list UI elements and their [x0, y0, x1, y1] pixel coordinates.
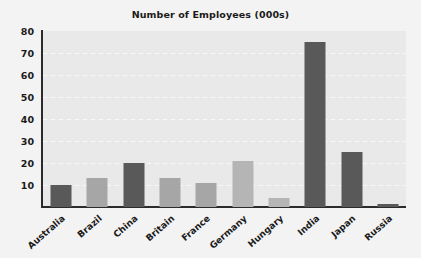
bar-slot: [43, 31, 79, 207]
x-axis-tick-label-slot: Russia: [370, 209, 406, 258]
x-axis-tick-label-slot: Brazil: [79, 209, 115, 258]
bar: [160, 178, 181, 207]
bars-layer: [43, 31, 406, 207]
x-axis-tick-label: Brazil: [75, 212, 105, 240]
bar-chart: Number of Employees (000s) 1020304050607…: [0, 0, 421, 258]
chart-title: Number of Employees (000s): [0, 9, 421, 20]
x-axis-tick-labels: AustraliaBrazilChinaBritainFranceGermany…: [43, 209, 406, 258]
bar-slot: [79, 31, 115, 207]
bar-slot: [370, 31, 406, 207]
y-axis-tick-label: 30: [0, 136, 38, 147]
x-axis-tick-label-slot: India: [297, 209, 333, 258]
bar: [268, 198, 289, 207]
bar: [123, 163, 144, 207]
bar-slot: [333, 31, 369, 207]
y-axis-tick-label: 60: [0, 70, 38, 81]
bar-slot: [261, 31, 297, 207]
bar: [377, 204, 398, 207]
bar: [87, 178, 108, 207]
bar: [232, 161, 253, 207]
y-axis-tick-label: 80: [0, 26, 38, 37]
bar-slot: [188, 31, 224, 207]
y-axis-tick-label: 10: [0, 180, 38, 191]
x-axis-tick-label-slot: Hungary: [261, 209, 297, 258]
bar-slot: [225, 31, 261, 207]
y-axis-tick-label: 70: [0, 48, 38, 59]
bar: [341, 152, 362, 207]
bar-slot: [297, 31, 333, 207]
bar-slot: [152, 31, 188, 207]
x-axis-tick-label-slot: Australia: [43, 209, 79, 258]
bar: [51, 185, 72, 207]
x-axis-tick-label: China: [112, 212, 142, 240]
y-axis-tick-labels: 1020304050607080: [0, 31, 38, 207]
y-axis-tick-label: 50: [0, 92, 38, 103]
x-axis-tick-label: Australia: [26, 212, 69, 251]
x-axis-tick-label: Japan: [330, 212, 359, 239]
bar: [196, 183, 217, 207]
y-axis-tick-label: 20: [0, 158, 38, 169]
bar-slot: [116, 31, 152, 207]
y-axis-tick-label: 40: [0, 114, 38, 125]
x-axis-tick-label: India: [296, 212, 323, 237]
bar: [305, 42, 326, 207]
